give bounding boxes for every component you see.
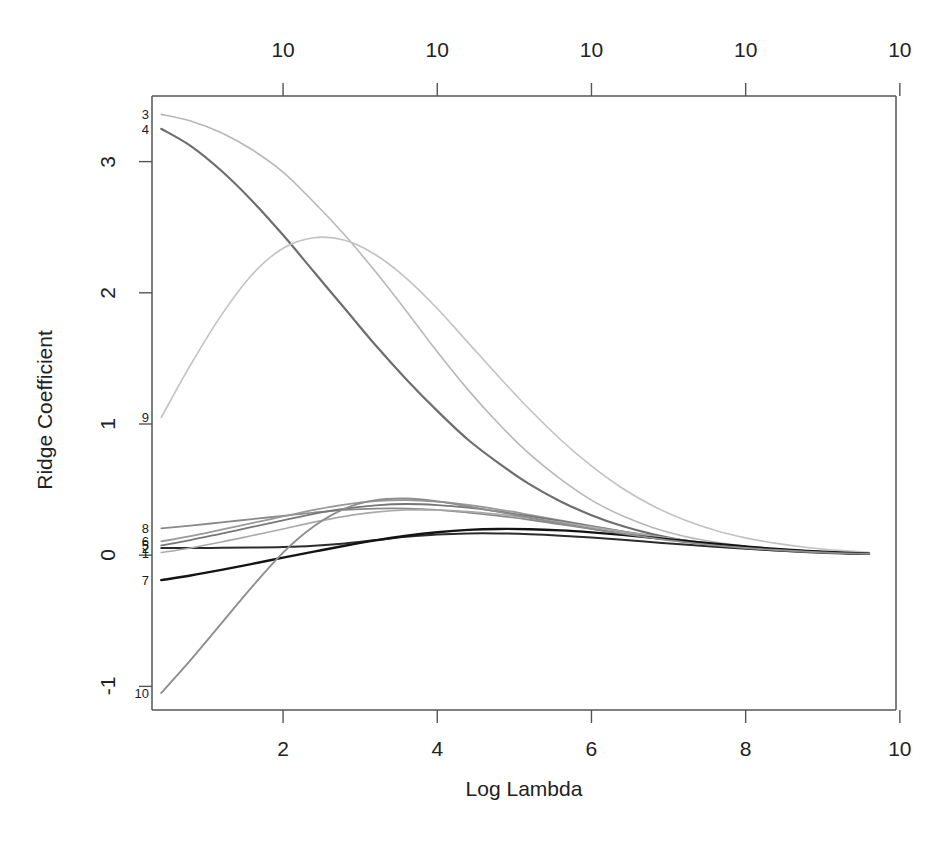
left-tick-label-4: -1: [96, 677, 120, 696]
series-label-1: 1: [142, 545, 149, 560]
y-axis-title: Ridge Coefficient: [33, 330, 57, 490]
series-label-7: 7: [142, 573, 149, 588]
top-tick-label-1: 10: [426, 38, 449, 62]
left-tick-label-3: 0: [96, 549, 120, 561]
series-label-9: 9: [142, 410, 149, 425]
axis-ticks: [139, 83, 900, 723]
bottom-tick-label-3: 8: [740, 737, 752, 761]
series-curve-7: [161, 529, 869, 580]
bottom-tick-label-4: 10: [888, 737, 911, 761]
bottom-tick-label-2: 6: [586, 737, 598, 761]
left-tick-label-1: 2: [96, 287, 120, 299]
series-label-10: 10: [135, 685, 149, 700]
bottom-tick-label-0: 2: [277, 737, 289, 761]
left-tick-label-0: 3: [96, 156, 120, 168]
top-tick-label-2: 10: [580, 38, 603, 62]
x-axis-title: Log Lambda: [466, 777, 583, 801]
top-tick-label-4: 10: [888, 38, 911, 62]
ridge-coefficient-plot: Log Lambda Ridge Coefficient 1010101010 …: [0, 0, 944, 851]
series-curve-9: [161, 237, 869, 552]
series-curve-2: [161, 533, 869, 554]
left-tick-label-2: 1: [96, 418, 120, 430]
series-label-4: 4: [142, 121, 149, 136]
series-curve-10: [161, 498, 869, 693]
series-curve-4: [161, 129, 869, 554]
series-curve-6: [161, 500, 869, 554]
top-tick-label-0: 10: [271, 38, 294, 62]
series-curve-3: [161, 114, 869, 554]
series-curves: [161, 114, 869, 693]
series-label-3: 3: [142, 107, 149, 122]
top-tick-label-3: 10: [734, 38, 757, 62]
bottom-tick-label-1: 4: [431, 737, 443, 761]
